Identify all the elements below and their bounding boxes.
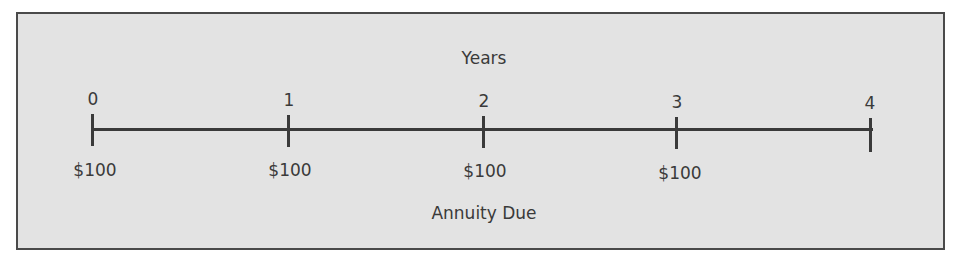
tick-mark-3: [675, 117, 678, 149]
timeline-title: Years: [462, 48, 507, 68]
timeline-caption: Annuity Due: [431, 203, 536, 223]
cash-flow-1: $100: [268, 160, 311, 180]
period-label-4: 4: [865, 93, 876, 113]
tick-mark-1: [287, 115, 290, 147]
period-label-0: 0: [88, 89, 99, 109]
period-label-1: 1: [284, 90, 295, 110]
period-label-2: 2: [479, 91, 490, 111]
tick-mark-4: [869, 118, 872, 152]
cash-flow-2: $100: [463, 161, 506, 181]
period-label-3: 3: [672, 92, 683, 112]
tick-mark-0: [91, 114, 94, 146]
tick-mark-2: [482, 116, 485, 148]
cash-flow-3: $100: [658, 163, 701, 183]
cash-flow-0: $100: [73, 160, 116, 180]
